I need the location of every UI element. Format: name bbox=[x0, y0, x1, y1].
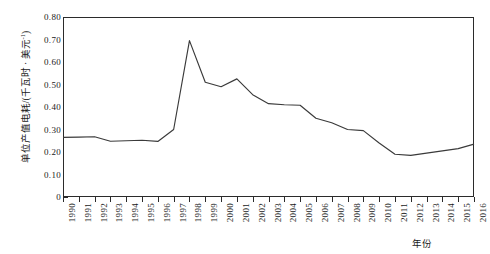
data-polyline bbox=[63, 41, 474, 156]
chart-root: 单位产值电耗/(千瓦时 · 美元-1) 0.800.700.600.500.40… bbox=[0, 0, 490, 254]
data-line-series bbox=[0, 0, 490, 254]
x-axis-title: 年份 bbox=[412, 236, 432, 250]
